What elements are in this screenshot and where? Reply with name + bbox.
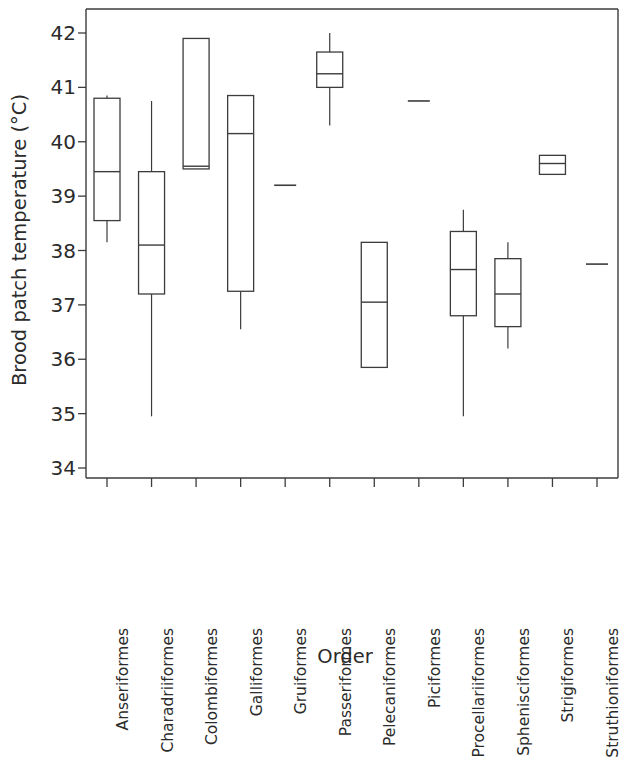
x-axis-title: Order [85,645,605,668]
x-axis-tick-label: Gruiformes [292,628,310,714]
x-axis-tick-label: Struthioniformes [604,628,622,758]
x-axis-tick-label: Anseriformes [114,628,132,730]
x-axis-tick-label: Galliformes [248,628,266,716]
x-axis-tick-label: Strigiformes [559,628,577,723]
